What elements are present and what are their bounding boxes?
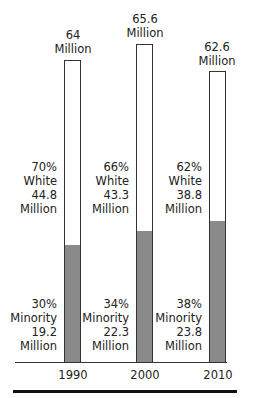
white-name: White (92, 174, 129, 188)
year-label-2000: 2000 (125, 368, 165, 382)
minority-label-2000: 34% Minority 22.3 Million (82, 297, 129, 353)
white-value: 43.3 (92, 188, 129, 202)
minority-segment-2000 (137, 231, 152, 362)
minority-name: Minority (155, 311, 202, 325)
minority-name: Minority (10, 311, 57, 325)
minority-pct: 34% (82, 297, 129, 311)
bottom-rule (13, 390, 237, 393)
white-label-1990: 70% White 44.8 Million (20, 160, 57, 216)
total-unit: Million (187, 54, 247, 68)
minority-pct: 30% (10, 297, 57, 311)
year-label-1990: 1990 (53, 368, 93, 382)
white-pct: 70% (20, 160, 57, 174)
minority-unit: Million (10, 339, 57, 353)
minority-label-1990: 30% Minority 19.2 Million (10, 297, 57, 353)
total-label-2000: 65.6 Million (115, 12, 175, 40)
white-label-2010: 62% White 38.8 Million (165, 160, 202, 216)
minority-unit: Million (82, 339, 129, 353)
bar-2010 (209, 71, 226, 363)
white-name: White (165, 174, 202, 188)
total-value: 62.6 (187, 40, 247, 54)
white-name: White (20, 174, 57, 188)
white-value: 44.8 (20, 188, 57, 202)
year-label-2010: 2010 (198, 368, 238, 382)
minority-value: 22.3 (82, 325, 129, 339)
minority-label-2010: 38% Minority 23.8 Million (155, 297, 202, 353)
bar-2000 (136, 44, 153, 363)
bar-1990 (64, 60, 81, 363)
minority-segment-1990 (65, 245, 80, 362)
white-unit: Million (165, 202, 202, 216)
minority-segment-2010 (210, 221, 225, 362)
white-label-2000: 66% White 43.3 Million (92, 160, 129, 216)
minority-name: Minority (82, 311, 129, 325)
total-label-1990: 64 Million (43, 28, 103, 56)
x-axis-baseline (15, 362, 227, 363)
white-pct: 66% (92, 160, 129, 174)
total-label-2010: 62.6 Million (187, 40, 247, 68)
total-value: 65.6 (115, 12, 175, 26)
total-unit: Million (115, 26, 175, 40)
white-value: 38.8 (165, 188, 202, 202)
total-value: 64 (43, 28, 103, 42)
minority-value: 23.8 (155, 325, 202, 339)
minority-value: 19.2 (10, 325, 57, 339)
total-unit: Million (43, 42, 103, 56)
minority-unit: Million (155, 339, 202, 353)
white-pct: 62% (165, 160, 202, 174)
stacked-bar-chart: 64 Million 70% White 44.8 Million 30% Mi… (0, 0, 257, 398)
white-unit: Million (92, 202, 129, 216)
minority-pct: 38% (155, 297, 202, 311)
white-unit: Million (20, 202, 57, 216)
